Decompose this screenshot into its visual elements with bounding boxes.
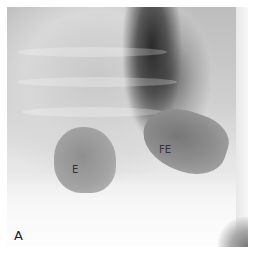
image-edge — [236, 7, 248, 247]
chest-xray-image — [7, 7, 248, 247]
abdominal-region — [7, 172, 248, 247]
panel-label: A — [14, 228, 23, 243]
annotation-e: E — [72, 164, 78, 175]
corner-shadow — [218, 217, 248, 247]
rib-shadow — [22, 107, 162, 117]
gastric-bubble-e — [54, 127, 116, 193]
annotation-fe: FE — [159, 144, 171, 155]
rib-shadow — [17, 47, 167, 57]
radiograph-figure: E FE A — [0, 0, 253, 253]
rib-shadow — [17, 77, 177, 87]
